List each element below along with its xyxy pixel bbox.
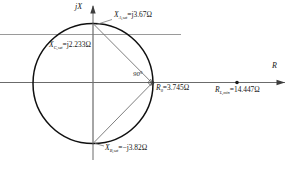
label-x-a-set-symbol: X [114,10,119,19]
label-r0-subscript: 0 [161,88,163,93]
label-x-c-set-value: =j2.233Ω [63,40,91,49]
label-r0-symbol: R [156,83,161,92]
label-x-a-set: XA,set=j3.67Ω [114,11,152,19]
label-r-l-min-symbol: R [215,85,220,94]
chord-top-to-r0 [93,24,152,84]
angle-label-90: 90° [133,71,143,78]
chord-bottom-to-r0 [93,83,152,144]
label-x-b-set-symbol: X [105,143,110,152]
label-x-c-set-subscript: C,set [54,45,63,50]
label-x-c-set: XC,set=j2.233Ω [49,41,91,49]
jx-axis-label: jX [75,3,82,11]
label-x-b-set: XB,set=−j3.82Ω [105,144,147,152]
point-r-l-min [235,81,239,85]
jx-axis-arrowhead [90,5,95,14]
label-x-b-set-value: =−j3.82Ω [118,143,147,152]
label-r0: R0=3.745Ω [156,84,189,92]
label-r0-value: =3.745Ω [163,83,189,92]
figure-canvas: jX R XA,set=j3.67Ω XC,set=j2.233Ω XB,set… [0,0,296,170]
label-x-a-set-value: =j3.67Ω [127,10,152,19]
label-x-c-set-symbol: X [49,40,54,49]
r-axis-label: R [272,62,277,70]
label-r-l-min-value: =14.447Ω [230,85,260,94]
label-r-l-min: RL,min=14.447Ω [215,86,260,94]
label-x-a-set-subscript: A,set [119,15,128,20]
label-x-b-set-subscript: B,set [110,148,119,153]
label-r-l-min-subscript: L,min [220,90,230,95]
r-axis-arrowhead [277,80,286,85]
